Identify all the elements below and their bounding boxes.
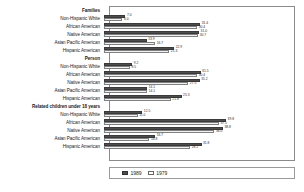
row-plot: 38.836.0 <box>104 126 304 134</box>
category-label: Asian Pacific American <box>0 88 104 93</box>
group-header-plot-spacer <box>104 102 304 110</box>
group-header-label: Related children under 18 years <box>0 104 104 109</box>
value-label-1989: 39.8 <box>228 118 234 121</box>
category-label: Asian Pacific American <box>0 136 104 141</box>
row-plot: 12.511.0 <box>104 110 304 118</box>
bar-1979 <box>104 114 138 117</box>
row-plot: 31.030.7 <box>104 30 304 38</box>
chart-row: African American39.837.5 <box>0 118 304 126</box>
bar-pair: 31.828.1 <box>104 142 304 150</box>
chart-rows: FamiliesNon-Hispanic White7.06.0African … <box>0 6 304 150</box>
bar-pair: 12.511.0 <box>104 110 304 118</box>
chart-row: Non-Hispanic White7.06.0 <box>0 14 304 22</box>
row-plot: 13.916.7 <box>104 38 304 46</box>
bar-1979 <box>104 66 130 69</box>
category-label: African American <box>0 24 104 29</box>
group-header-row: Related children under 18 years <box>0 102 304 110</box>
bar-1979 <box>104 98 171 101</box>
value-label-1979: 16.7 <box>157 42 163 45</box>
bar-1979 <box>104 26 197 29</box>
bar-1979 <box>104 50 169 53</box>
value-label-1979: 14.8 <box>151 138 157 141</box>
value-label-1989: 25.3 <box>183 94 189 97</box>
row-plot: 31.828.1 <box>104 142 304 150</box>
value-label-1989: 31.8 <box>203 142 209 145</box>
category-label: Hispanic American <box>0 96 104 101</box>
legend-item: 1989 <box>122 170 142 176</box>
row-plot: 25.321.8 <box>104 94 304 102</box>
value-label-1979: 6.0 <box>124 18 129 21</box>
bar-1979 <box>104 18 122 21</box>
legend-item: 1979 <box>148 170 168 176</box>
category-label: Non-Hispanic White <box>0 64 104 69</box>
bar-1979 <box>104 122 219 125</box>
chart-row: Asian Pacific American13.916.7 <box>0 38 304 46</box>
value-label-1989: 16.7 <box>157 134 163 137</box>
category-label: African American <box>0 72 104 77</box>
chart-row: Asian Pacific American16.714.8 <box>0 134 304 142</box>
bar-1979 <box>104 138 149 141</box>
legend-label: 1989 <box>131 170 142 176</box>
legend-swatch-1979 <box>148 171 154 176</box>
group-header-row: Person <box>0 54 304 62</box>
category-label: Hispanic American <box>0 48 104 53</box>
row-plot: 22.921.3 <box>104 46 304 54</box>
chart-row: Non-Hispanic White12.511.0 <box>0 110 304 118</box>
chart-row: Hispanic American22.921.3 <box>0 46 304 54</box>
row-plot: 39.837.5 <box>104 118 304 126</box>
bar-pair: 31.227.5 <box>104 78 304 86</box>
chart-row: Hispanic American31.828.1 <box>0 142 304 150</box>
chart-row: Hispanic American25.321.8 <box>0 94 304 102</box>
value-label-1979: 14.1 <box>149 90 155 93</box>
group-header-label: Person <box>0 56 104 61</box>
category-label: Asian Pacific American <box>0 40 104 45</box>
chart-row: Non-Hispanic White9.28.5 <box>0 62 304 70</box>
bar-pair: 39.837.5 <box>104 118 304 126</box>
category-label: Native American <box>0 32 104 37</box>
value-label-1989: 13.9 <box>148 38 154 41</box>
chart-row: Asian Pacific American14.114.1 <box>0 86 304 94</box>
bar-pair: 22.921.3 <box>104 46 304 54</box>
group-header-label: Families <box>0 8 104 13</box>
chart-legend: 19891979 <box>109 167 295 179</box>
value-label-1979: 30.7 <box>200 34 206 37</box>
category-label: Non-Hispanic White <box>0 112 104 117</box>
value-label-1979: 21.8 <box>172 98 178 101</box>
bar-pair: 25.321.8 <box>104 94 304 102</box>
value-label-1979: 27.5 <box>190 82 196 85</box>
chart-row: African American31.430.4 <box>0 22 304 30</box>
bar-1979 <box>104 74 197 77</box>
chart-row: Native American38.836.0 <box>0 126 304 134</box>
group-header-plot-spacer <box>104 6 304 14</box>
row-plot: 14.114.1 <box>104 86 304 94</box>
bar-pair: 38.836.0 <box>104 126 304 134</box>
value-label-1979: 28.1 <box>192 146 198 149</box>
category-label: Hispanic American <box>0 144 104 149</box>
value-label-1979: 36.0 <box>216 130 222 133</box>
category-label: Non-Hispanic White <box>0 16 104 21</box>
value-label-1979: 8.5 <box>132 66 137 69</box>
bar-pair: 13.916.7 <box>104 38 304 46</box>
value-label-1979: 11.0 <box>139 114 145 117</box>
bar-pair: 14.114.1 <box>104 86 304 94</box>
bar-1979 <box>104 82 188 85</box>
legend-swatch-1989 <box>122 171 128 176</box>
value-label-1989: 38.8 <box>224 126 230 129</box>
category-label: Native American <box>0 80 104 85</box>
bar-1979 <box>104 90 147 93</box>
category-label: African American <box>0 120 104 125</box>
bar-chart: FamiliesNon-Hispanic White7.06.0African … <box>0 0 304 192</box>
chart-row: African American31.530.4 <box>0 70 304 78</box>
value-label-1989: 31.2 <box>201 78 207 81</box>
bar-1979 <box>104 146 190 149</box>
value-label-1979: 21.3 <box>171 50 177 53</box>
legend-label: 1979 <box>156 170 167 176</box>
group-header-row: Families <box>0 6 304 14</box>
bar-1979 <box>104 42 155 45</box>
category-label: Native American <box>0 128 104 133</box>
bar-pair: 31.030.7 <box>104 30 304 38</box>
row-plot: 31.227.5 <box>104 78 304 86</box>
